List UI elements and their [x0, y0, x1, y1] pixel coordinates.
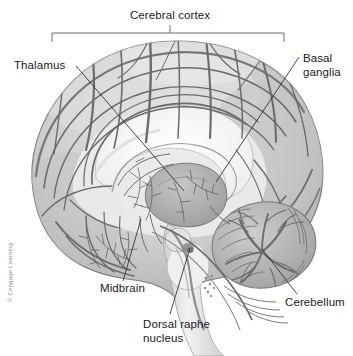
label-dorsal-raphe-line1: Dorsal raphe	[143, 318, 210, 330]
label-basal-ganglia-line1: Basal	[303, 52, 332, 64]
label-dorsal-raphe-line2: nucleus	[143, 332, 183, 344]
copyright-credit: © Cengage Learning	[7, 240, 13, 302]
thalamus-structure	[145, 163, 226, 227]
label-cerebral-cortex: Cerebral cortex	[130, 9, 210, 21]
label-cerebellum: Cerebellum	[285, 296, 345, 308]
brain-diagram-svg: Cerebral cortex Thalamus Basal ganglia M…	[0, 0, 353, 356]
label-basal-ganglia-line2: ganglia	[303, 66, 341, 78]
brain-anatomy-figure: Cerebral cortex Thalamus Basal ganglia M…	[0, 0, 353, 356]
label-thalamus: Thalamus	[14, 59, 65, 71]
label-midbrain: Midbrain	[100, 282, 145, 294]
